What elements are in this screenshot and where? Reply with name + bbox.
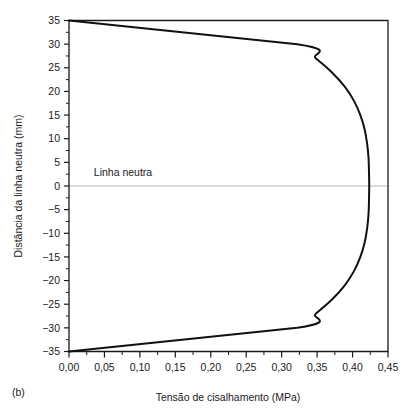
y-tick-label: −20 (42, 274, 60, 286)
x-tick-label: 0,35 (307, 361, 328, 373)
y-tick-label: 5 (54, 156, 60, 168)
y-tick-label: 30 (48, 38, 60, 50)
x-tick-label: 0,25 (236, 361, 257, 373)
y-tick-label: 35 (48, 14, 60, 26)
x-tick-label: 0,45 (378, 361, 399, 373)
x-tick-label: 0,15 (165, 361, 186, 373)
y-tick-label: −30 (42, 322, 60, 334)
y-tick-label: 25 (48, 61, 60, 73)
panel-label: (b) (12, 386, 25, 398)
chart-annotations: Linha neutra (94, 166, 153, 178)
chart-canvas: 35302520151050−5−10−15−20−25−30−35 0,000… (0, 0, 411, 413)
x-tick-label: 0,20 (201, 361, 222, 373)
x-tick-label: 0,30 (271, 361, 292, 373)
y-tick-label: 0 (54, 180, 60, 192)
y-tick-label: −15 (42, 251, 60, 263)
y-tick-label: −10 (42, 227, 60, 239)
x-tick-label: 0,05 (94, 361, 115, 373)
shear-stress-chart-figure: 35302520151050−5−10−15−20−25−30−35 0,000… (0, 0, 411, 413)
y-tick-label: −35 (42, 345, 60, 357)
y-tick-label: −25 (42, 298, 60, 310)
y-tick-label: 15 (48, 109, 60, 121)
y-tick-label: 20 (48, 85, 60, 97)
annotation-neutral-axis-label: Linha neutra (94, 166, 153, 178)
x-tick-label: 0,40 (342, 361, 363, 373)
y-tick-label: 10 (48, 132, 60, 144)
x-tick-label: 0,10 (130, 361, 151, 373)
x-axis-title: Tensão de cisalhamento (MPa) (156, 391, 301, 403)
y-tick-label: −5 (48, 203, 60, 215)
x-tick-label: 0,00 (59, 361, 80, 373)
y-axis-title: Distância da linha neutra (mm) (12, 115, 24, 258)
